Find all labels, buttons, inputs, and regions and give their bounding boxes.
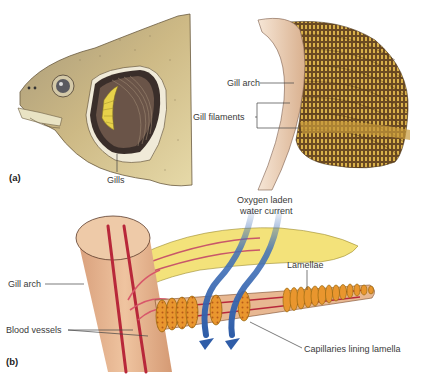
gill-arch-filaments-illustration xyxy=(258,18,410,190)
panel-a-tag: (a) xyxy=(9,172,21,183)
label-capillaries: Capillaries lining lamella xyxy=(304,344,401,354)
capillaries-leader xyxy=(250,322,302,348)
label-gill-filaments: Gill filaments xyxy=(193,112,245,122)
label-water-current-line1: Oxygen laden xyxy=(237,195,293,205)
label-blood-vessels: Blood vessels xyxy=(6,325,62,335)
label-lamellae: Lamellae xyxy=(287,260,324,270)
label-gill-arch-b: Gill arch xyxy=(8,279,41,289)
panel-b-tag: (b) xyxy=(6,356,18,367)
label-gills: Gills xyxy=(107,175,125,185)
fish-head-illustration xyxy=(18,14,192,186)
label-water-current-line2: water current xyxy=(239,206,293,216)
gill-diagram: Gills (a) Gill arch Gill filaments xyxy=(0,0,421,385)
label-gill-arch-a: Gill arch xyxy=(227,78,260,88)
